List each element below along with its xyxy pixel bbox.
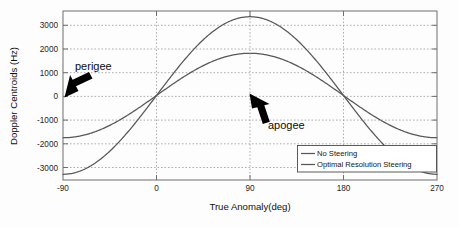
y-tick-label: -2000 [37,140,58,149]
chart-figure: 3000 2000 1000 0 -1000 -2000 -3000 -90 0… [0,0,459,228]
x-axis-title: True Anomaly(deg) [209,201,290,212]
x-tick-label: -90 [57,184,69,193]
y-tick-label: -1000 [37,116,58,125]
x-tick-label: 0 [154,184,159,193]
y-tick-label: 2000 [40,45,59,54]
legend[interactable]: No Steering Optimal Resolution Steering [298,146,437,173]
x-tick-label: 270 [430,184,444,193]
y-tick-label: -3000 [37,164,58,173]
chart-background [0,0,459,228]
x-tick-label: 90 [245,184,255,193]
y-tick-label: 3000 [40,21,59,30]
y-axis-title: Doppler Centroids (Hz) [8,47,19,145]
doppler-centroid-chart: 3000 2000 1000 0 -1000 -2000 -3000 -90 0… [0,0,459,228]
perigee-label: perigee [75,60,112,72]
legend-label: No Steering [317,149,357,158]
apogee-label: apogee [268,119,305,131]
y-tick-label: 1000 [40,69,59,78]
legend-label: Optimal Resolution Steering [317,160,412,169]
y-tick-label: 0 [53,92,58,101]
legend-item-optimal-resolution-steering[interactable]: Optimal Resolution Steering [301,160,412,169]
x-tick-label: 180 [337,184,351,193]
